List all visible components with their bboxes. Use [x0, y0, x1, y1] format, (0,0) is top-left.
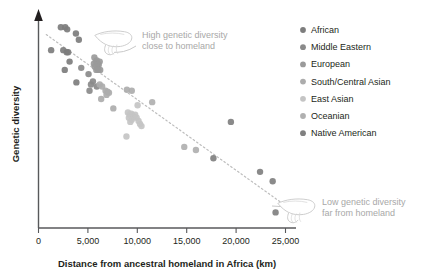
legend-item-native-american[interactable]: Native American: [300, 128, 376, 138]
legend-item-south-central-asian[interactable]: South/Central Asian: [300, 77, 390, 87]
legend-swatch-dot: [300, 62, 306, 68]
data-point: [127, 119, 133, 125]
annotation-low-line2: far from homeland: [322, 208, 395, 218]
legend-swatch-dot: [300, 27, 306, 33]
data-point: [91, 60, 97, 66]
data-point: [257, 169, 263, 175]
data-point: [90, 78, 96, 84]
data-point: [149, 99, 155, 105]
y-axis-title: Genetic diversity: [10, 85, 21, 162]
data-point: [98, 96, 104, 102]
data-point: [181, 144, 187, 150]
legend-swatch-dot: [300, 44, 306, 50]
data-point: [48, 47, 54, 53]
data-point: [106, 90, 112, 96]
data-point: [64, 26, 70, 32]
data-point: [272, 209, 278, 215]
data-point: [73, 30, 79, 36]
x-axis-title: Distance from ancestral homeland in Afri…: [58, 258, 276, 269]
x-tick-label-1: 5,000: [77, 236, 100, 246]
data-point: [269, 178, 275, 184]
x-tick-label-2: 10,000: [124, 236, 152, 246]
legend-label: European: [311, 59, 350, 69]
data-point: [86, 88, 92, 94]
data-point: [210, 155, 216, 161]
data-point: [66, 58, 72, 64]
data-point: [134, 102, 140, 108]
legend-label: Middle Eastern: [311, 42, 371, 52]
legend-swatch-dot: [300, 96, 306, 102]
data-point: [97, 67, 103, 73]
legend-swatch-dot: [300, 113, 306, 119]
annotation-low-line1: Low genetic diversity: [322, 197, 406, 207]
data-point: [110, 105, 116, 111]
data-point: [85, 71, 91, 77]
data-point: [73, 79, 79, 85]
annotation-high-line1: High genetic diversity: [142, 30, 228, 40]
legend-label: Oceanian: [311, 111, 350, 121]
data-point: [129, 88, 135, 94]
x-tick-label-0: 0: [36, 236, 41, 246]
legend-label: Native American: [311, 128, 377, 138]
data-point: [97, 58, 103, 64]
scatter-plot-svg: 0 5,000 10,000 15,000 20,000 25,000 Dist…: [0, 0, 439, 276]
legend-swatch-dot: [300, 130, 306, 136]
legend-label: African: [311, 25, 339, 35]
legend-swatch-dot: [300, 79, 306, 85]
data-point: [65, 49, 71, 55]
data-point: [62, 67, 68, 73]
data-point: [78, 65, 84, 71]
data-point: [193, 147, 199, 153]
data-point: [123, 133, 129, 139]
chart-figure: 0 5,000 10,000 15,000 20,000 25,000 Dist…: [0, 0, 439, 276]
legend-item-middle-eastern[interactable]: Middle Eastern: [300, 42, 371, 52]
data-point: [76, 37, 82, 43]
data-point: [138, 123, 144, 129]
legend-label: East Asian: [311, 94, 354, 104]
data-point: [97, 81, 103, 87]
data-point: [228, 119, 234, 125]
x-tick-label-5: 25,000: [272, 236, 300, 246]
x-tick-label-4: 20,000: [222, 236, 250, 246]
annotation-high-line2: close to homeland: [142, 41, 215, 51]
legend-label: South/Central Asian: [311, 77, 391, 87]
x-tick-label-3: 15,000: [173, 236, 201, 246]
